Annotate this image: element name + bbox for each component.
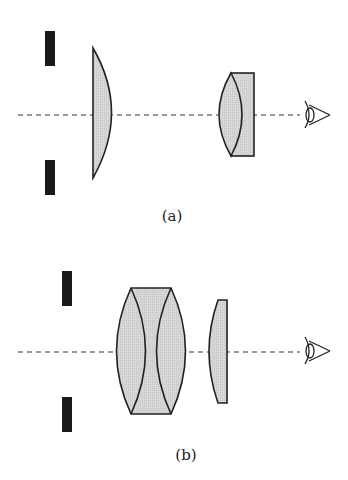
panel-label-a: (a)	[162, 207, 183, 225]
thick-lens-group	[117, 288, 186, 414]
plano-convex-lens	[93, 48, 112, 178]
aperture-stop-bottom	[45, 160, 55, 195]
plano-convex-lens	[209, 300, 227, 403]
eye-icon	[305, 337, 330, 364]
panel-a: (a)	[18, 31, 330, 225]
aperture-stop-top	[45, 31, 55, 66]
eye-icon	[305, 101, 330, 128]
panel-b: (b)	[18, 271, 330, 464]
eyepiece-doublet	[219, 73, 254, 156]
panel-label-b: (b)	[175, 446, 196, 464]
optical-diagram: (a) (b)	[0, 0, 348, 480]
aperture-stop-top	[62, 271, 72, 306]
aperture-stop-bottom	[62, 397, 72, 432]
